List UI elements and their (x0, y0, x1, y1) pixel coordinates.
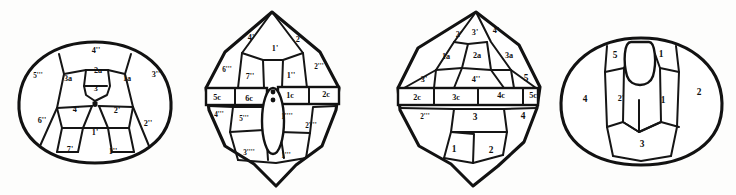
plate-label: 6c (245, 94, 253, 103)
plate-label: 7'' (246, 72, 255, 81)
plate-label: 5''' (33, 72, 43, 80)
plate-label: 4''' (214, 111, 224, 119)
plate-label: 2' (618, 94, 624, 103)
plate-tabulation-figure: 4''5'''3a2a3'1a3''4'2'6''2''1'7'1'' (0, 0, 736, 195)
plate-label: 2' (114, 106, 120, 115)
plate-label: 4' (248, 33, 254, 42)
plate-label: 1'''' (281, 113, 293, 121)
plate-label: 7' (67, 145, 73, 154)
plate-label: 2' (456, 30, 462, 39)
plate-label: 5c (529, 91, 537, 100)
plate-label: 2''' (420, 113, 430, 121)
plate-label: 3a (64, 74, 72, 83)
plate-label: 6''' (222, 66, 232, 74)
plate-label: 4' (73, 105, 79, 114)
panel-2-drawing (206, 12, 339, 186)
plate-label: 2'''' (305, 122, 317, 130)
plate-label: 4' (493, 26, 499, 35)
plate-label: 3c (452, 93, 460, 102)
plate-label: 2''' (314, 63, 324, 71)
plate-label: 2c (322, 90, 330, 99)
panel-1-drawing (19, 42, 171, 163)
plate-label: 4'' (92, 46, 101, 55)
plate-label: 1c (286, 91, 294, 100)
plate-label: 3 (640, 139, 645, 149)
plate-label: 1 (659, 49, 664, 59)
plate-label: 2'' (144, 119, 153, 128)
plate-label: 4 (583, 94, 588, 104)
plate-label: 1''' (281, 152, 291, 160)
plate-label: 4'' (472, 75, 481, 84)
figure-panel-ventral-view: 2'3'4'1a2a3a3'4''52c3c4c5c2'''3412 (356, 0, 546, 195)
plate-label: 4c (497, 91, 505, 100)
plate-label: 3' (421, 75, 427, 84)
figure-panel-antapical-view: 5142'123 (545, 0, 736, 195)
plate-label: 2a (473, 51, 481, 60)
plate-label: 2a (94, 66, 102, 75)
plate-label: 1a (442, 52, 450, 61)
plate-label: 3 (473, 112, 478, 122)
plate-label: 5c (213, 93, 221, 102)
plate-label: 2c (413, 93, 421, 102)
plate-label: 3'' (152, 70, 161, 79)
plate-label: 5''' (239, 115, 249, 123)
plate-label: 2 (489, 145, 494, 155)
plate-label: 1'' (109, 147, 118, 156)
plate-label: 3' (472, 28, 478, 37)
plate-label: 1 (661, 95, 666, 105)
plate-label: 5 (524, 73, 529, 83)
plate-label: 3' (94, 84, 100, 93)
plate-label: 1 (452, 144, 457, 154)
plate-label: 4 (521, 111, 526, 121)
plate-label: 3'''' (243, 149, 255, 157)
figure-panel-dorsal-view: 4'1'2'6'''7''1''2'''5c6c1c2c4'''5'''1'''… (180, 0, 362, 195)
plate-label: 1'' (287, 71, 296, 80)
figure-panel-apical-view: 4''5'''3a2a3'1a3''4'2'6''2''1'7'1'' (0, 0, 184, 195)
plate-label: 1a (123, 74, 131, 83)
plate-label: 1' (272, 44, 278, 53)
plate-label: 1' (92, 128, 98, 137)
plate-label: 6'' (38, 116, 47, 125)
plate-label: 2 (697, 87, 702, 97)
plate-label: 3a (505, 51, 513, 60)
plate-label: 2' (296, 35, 302, 44)
plate-label: 5 (613, 50, 618, 60)
